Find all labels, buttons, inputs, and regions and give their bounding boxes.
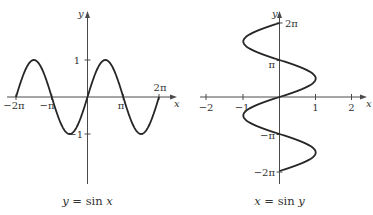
tick-label-neg-1: −1 bbox=[68, 129, 83, 140]
tick-label-2pi: 2π bbox=[154, 82, 167, 93]
figure: −2π −π π 2π 1 −1 x y y = sin x −2 −1 bbox=[0, 0, 373, 215]
x-axis-label: x bbox=[366, 98, 372, 109]
tick-label-pi: π bbox=[268, 59, 275, 70]
caption-arg: y bbox=[297, 194, 305, 208]
caption-right: x = sin y bbox=[254, 194, 305, 208]
tick-label-neg-2: −2 bbox=[199, 102, 214, 113]
caption-eq: = sin bbox=[69, 194, 107, 208]
tick-label-neg-1: −1 bbox=[235, 102, 250, 113]
tick-label-2pi: 2π bbox=[285, 18, 298, 29]
tick-label-1: 1 bbox=[74, 55, 80, 66]
x-axis-label: x bbox=[174, 98, 180, 109]
plot-y-equals-sin-x: −2π −π π 2π 1 −1 x y y = sin x bbox=[3, 8, 180, 208]
tick-label-neg-pi: −π bbox=[260, 130, 275, 141]
y-axis-arrow-icon bbox=[85, 11, 90, 18]
y-axis-label: y bbox=[77, 8, 84, 19]
y-axis-label: y bbox=[271, 8, 278, 19]
caption-eq: = sin bbox=[261, 194, 299, 208]
caption-left: y = sin x bbox=[61, 194, 113, 208]
tick-label-neg-2pi: −2π bbox=[3, 100, 25, 111]
tick-label-1: 1 bbox=[312, 102, 318, 113]
tick-label-neg-2pi: −2π bbox=[254, 167, 276, 178]
tick-label-2: 2 bbox=[348, 102, 354, 113]
plot-x-equals-sin-y: −2 −1 1 2 2π π −π −2π x y x = sin y bbox=[199, 8, 372, 208]
tick-label-pi: π bbox=[118, 100, 125, 111]
caption-arg: x bbox=[106, 194, 113, 208]
tick-label-neg-pi: −π bbox=[40, 100, 55, 111]
y-axis-arrow-icon bbox=[277, 11, 282, 18]
